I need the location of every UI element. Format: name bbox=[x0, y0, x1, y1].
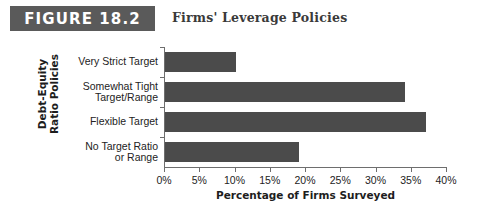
y-axis-tick-labels: Very Strict TargetSomewhat Tight Target/… bbox=[56, 47, 158, 167]
bar bbox=[165, 52, 236, 72]
x-axis-tick bbox=[376, 168, 377, 172]
x-axis-tick bbox=[235, 168, 236, 172]
figure-header: FIGURE 18.2 Firms' Leverage Policies bbox=[0, 0, 481, 38]
x-axis-tick bbox=[446, 168, 447, 172]
x-axis-tick-label: 40% bbox=[429, 174, 463, 186]
x-axis-tick-label: 10% bbox=[218, 174, 252, 186]
x-axis-tick-label: 15% bbox=[253, 174, 287, 186]
x-axis-tick-label: 25% bbox=[323, 174, 357, 186]
x-axis-tick bbox=[305, 168, 306, 172]
y-axis-tick bbox=[160, 107, 164, 108]
y-axis-tick bbox=[160, 137, 164, 138]
x-axis-tick bbox=[411, 168, 412, 172]
x-axis-tick bbox=[199, 168, 200, 172]
y-axis-tick-label: Very Strict Target bbox=[56, 56, 158, 68]
x-axis-title: Percentage of Firms Surveyed bbox=[164, 189, 447, 201]
bar-chart: Debt-Equity Ratio Policies Very Strict T… bbox=[0, 38, 481, 216]
y-axis-tick bbox=[160, 47, 164, 48]
x-axis-tick-label: 35% bbox=[394, 174, 428, 186]
y-axis-tick-label: No Target Ratio or Range bbox=[56, 141, 158, 164]
plot-area: 0%5%10%15%20%25%30%35%40% bbox=[164, 47, 446, 167]
bar bbox=[165, 112, 426, 132]
x-axis-tick-label: 5% bbox=[182, 174, 216, 186]
y-axis-tick-label: Flexible Target bbox=[56, 116, 158, 128]
x-axis-tick bbox=[340, 168, 341, 172]
x-axis-tick-label: 0% bbox=[147, 174, 181, 186]
bar bbox=[165, 82, 405, 102]
x-axis-tick bbox=[164, 168, 165, 172]
x-axis-tick-label: 20% bbox=[288, 174, 322, 186]
figure-number-badge: FIGURE 18.2 bbox=[10, 6, 155, 31]
x-axis-tick-label: 30% bbox=[359, 174, 393, 186]
x-axis-tick bbox=[270, 168, 271, 172]
y-axis-tick bbox=[160, 77, 164, 78]
figure-title: Firms' Leverage Policies bbox=[172, 10, 347, 25]
bar bbox=[165, 142, 299, 162]
y-axis-tick-label: Somewhat Tight Target/Range bbox=[56, 81, 158, 104]
